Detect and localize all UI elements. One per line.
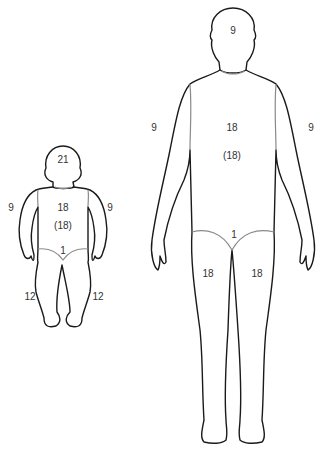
infant-head-outline [45, 146, 81, 189]
infant-right-leg-percent: 12 [92, 291, 103, 302]
adult-trunk-front-percent: 18 [226, 122, 237, 133]
adult-trunk-back-percent: (18) [223, 150, 241, 161]
infant-trunk-back-percent: (18) [54, 220, 72, 231]
body-diagram [0, 0, 324, 463]
adult-head-percent: 9 [230, 25, 236, 36]
adult-head-outline [211, 8, 256, 73]
infant-left-arm-percent: 9 [8, 202, 14, 213]
adult-genitalia-percent: 1 [231, 229, 237, 240]
infant-left-leg-percent: 12 [24, 291, 35, 302]
adult-right-arm-percent: 9 [308, 122, 314, 133]
infant-neck-divider [55, 187, 71, 189]
infant-genitalia-percent: 1 [60, 245, 66, 256]
infant-right-arm-percent: 9 [107, 202, 113, 213]
adult-right-leg-percent: 18 [251, 268, 262, 279]
infant-head-percent: 21 [57, 154, 68, 165]
adult-figure [151, 8, 314, 443]
adult-left-arm-percent: 9 [151, 122, 157, 133]
adult-left-arm-divider [190, 84, 191, 150]
adult-left-leg-percent: 18 [202, 268, 213, 279]
infant-trunk-front-percent: 18 [57, 202, 68, 213]
adult-right-arm-divider [275, 84, 276, 150]
